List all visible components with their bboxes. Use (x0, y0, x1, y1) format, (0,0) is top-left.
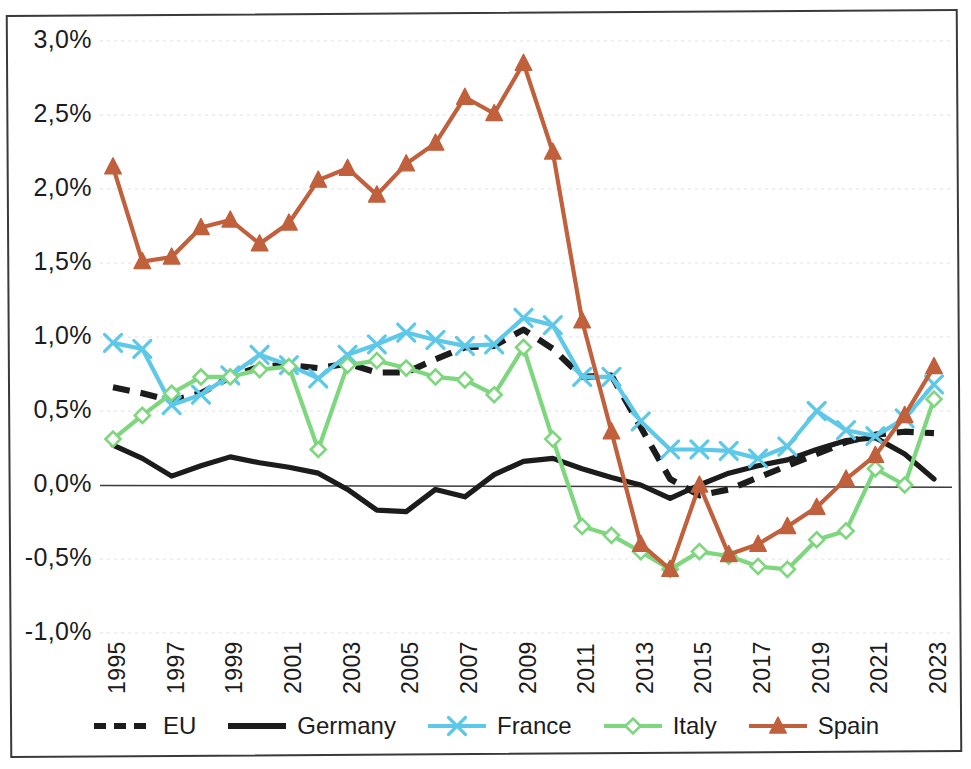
legend-item-france[interactable]: France (426, 712, 572, 740)
y-tick-label: 1,0% (0, 321, 92, 350)
zero-axis-line (100, 486, 952, 488)
y-tick-label: -0,5% (0, 543, 92, 572)
data-point-marker (252, 362, 267, 377)
legend-label: Germany (297, 712, 396, 740)
legend-swatch-germany (226, 715, 288, 737)
data-point-marker (105, 158, 122, 174)
data-point-marker (457, 88, 474, 104)
data-point-marker (625, 719, 640, 734)
y-tick-label: 0,0% (0, 469, 92, 498)
legend-swatch-france (426, 715, 488, 737)
data-point-marker (457, 372, 472, 387)
data-point-marker (545, 432, 560, 447)
x-tick-label: 1999 (221, 641, 248, 694)
x-tick-label: 2021 (866, 641, 893, 694)
data-point-marker (574, 312, 591, 328)
data-point-marker (311, 442, 326, 457)
data-point-marker (926, 358, 943, 374)
legend-label: Italy (673, 712, 717, 740)
series-germany (113, 438, 934, 512)
y-tick-label: -1,0% (0, 617, 92, 646)
legend-swatch-spain (747, 715, 809, 737)
legend-item-italy[interactable]: Italy (602, 712, 717, 740)
x-tick-label: 2023 (925, 641, 952, 694)
legend-label: EU (163, 712, 196, 740)
data-point-marker (603, 423, 620, 439)
legend-swatch-eu (92, 715, 154, 737)
data-point-marker (515, 54, 532, 70)
legend-label: France (497, 712, 572, 740)
legend-item-eu[interactable]: EU (92, 712, 196, 740)
legend-label: Spain (818, 712, 879, 740)
x-tick-label: 1997 (163, 641, 190, 694)
legend-swatch-italy (602, 715, 664, 737)
data-point-marker (339, 159, 356, 175)
data-point-marker (369, 353, 384, 368)
data-point-marker (927, 392, 942, 407)
y-tick-label: 0,5% (0, 395, 92, 424)
x-tick-label: 2013 (632, 641, 659, 694)
x-tick-label: 2017 (749, 641, 776, 694)
data-point-marker (633, 535, 650, 551)
data-point-marker (545, 143, 562, 159)
x-tick-label: 2009 (515, 641, 542, 694)
data-point-marker (222, 211, 239, 227)
x-tick-label: 2003 (339, 641, 366, 694)
data-point-marker (751, 559, 766, 574)
data-point-marker (310, 370, 327, 387)
chart-figure: 3,0%2,5%2,0%1,5%1,0%0,5%0,0%-0,5%-1,0% 1… (0, 0, 971, 769)
y-tick-label: 3,0% (0, 25, 92, 54)
series-line (113, 438, 934, 512)
y-tick-label: 2,0% (0, 173, 92, 202)
y-tick-label: 1,5% (0, 247, 92, 276)
data-point-marker (428, 369, 443, 384)
x-tick-label: 2019 (808, 641, 835, 694)
x-tick-label: 2011 (573, 643, 600, 694)
legend-item-germany[interactable]: Germany (226, 712, 396, 740)
series-spain (105, 54, 943, 576)
data-point-marker (779, 438, 796, 455)
data-point-marker (779, 517, 796, 533)
x-tick-label: 2005 (397, 641, 424, 694)
x-tick-label: 2001 (280, 641, 307, 694)
data-point-marker (839, 523, 854, 538)
x-tick-label: 2015 (690, 641, 717, 694)
data-point-marker (750, 535, 767, 551)
data-point-marker (399, 361, 414, 376)
chart-legend: EUGermanyFranceItalySpain (0, 702, 971, 750)
data-point-marker (575, 519, 590, 534)
y-tick-label: 2,5% (0, 99, 92, 128)
legend-item-spain[interactable]: Spain (747, 712, 879, 740)
x-tick-label: 2007 (456, 641, 483, 694)
x-tick-label: 1995 (104, 641, 131, 694)
